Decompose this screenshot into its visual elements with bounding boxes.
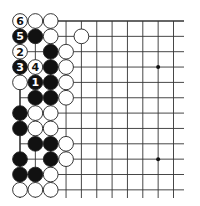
white-stone (59, 60, 74, 75)
move-number-label: 4 (32, 61, 40, 74)
white-stone (13, 75, 28, 90)
black-stone (28, 136, 43, 151)
move-number-label: 6 (16, 15, 24, 28)
white-stone (28, 121, 43, 136)
stones: 652341 (13, 14, 89, 198)
black-stone (13, 167, 28, 182)
black-stone: 3 (13, 60, 28, 75)
move-number-label: 5 (16, 30, 24, 43)
black-stone (13, 152, 28, 167)
white-stone (59, 136, 74, 151)
star-point-icon (156, 157, 160, 161)
white-stone (43, 182, 58, 197)
black-stone (28, 90, 43, 105)
black-stone (43, 75, 58, 90)
black-stone: 5 (13, 29, 28, 44)
white-stone (59, 90, 74, 105)
white-stone (13, 182, 28, 197)
black-stone: 1 (28, 75, 43, 90)
white-stone (43, 167, 58, 182)
white-stone (28, 106, 43, 121)
black-stone (28, 167, 43, 182)
white-stone: 2 (13, 44, 28, 59)
white-stone (43, 29, 58, 44)
move-number-label: 2 (16, 46, 24, 59)
black-stone (13, 106, 28, 121)
white-stone (28, 182, 43, 197)
white-stone: 6 (13, 14, 28, 29)
white-stone (43, 121, 58, 136)
black-stone (43, 60, 58, 75)
star-point-icon (156, 65, 160, 69)
black-stone (43, 152, 58, 167)
white-stone (59, 44, 74, 59)
white-stone (59, 152, 74, 167)
black-stone (43, 44, 58, 59)
black-stone (43, 90, 58, 105)
move-number-label: 3 (16, 61, 24, 74)
white-stone: 4 (28, 60, 43, 75)
black-stone (43, 136, 58, 151)
white-stone (28, 14, 43, 29)
move-number-label: 1 (32, 76, 40, 89)
black-stone (28, 29, 43, 44)
go-board: 652341 (0, 0, 200, 206)
black-stone (13, 121, 28, 136)
white-stone (74, 29, 89, 44)
white-stone (43, 106, 58, 121)
white-stone (59, 75, 74, 90)
white-stone (43, 14, 58, 29)
